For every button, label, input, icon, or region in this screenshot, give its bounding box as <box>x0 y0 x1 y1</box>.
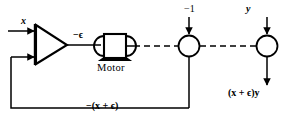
label-amplifier-output: −ϵ <box>73 30 83 40</box>
junction1-circle <box>179 36 200 57</box>
junction2-circle <box>257 36 278 57</box>
motor-block <box>94 34 136 60</box>
label-input-x: x <box>21 16 26 26</box>
label-motor: Motor <box>97 63 125 74</box>
amplifier-triangle <box>36 25 67 64</box>
block-diagram: x −ϵ Motor −1 y (x + ϵ)y −(x + ϵ) <box>0 0 290 121</box>
label-junction1-input: −1 <box>184 4 195 14</box>
label-feedback: −(x + ϵ) <box>86 101 118 111</box>
label-output: (x + ϵ)y <box>228 88 260 98</box>
motor-base <box>101 58 129 60</box>
motor-body <box>104 34 126 58</box>
summing-junction-2 <box>257 36 278 57</box>
diagram-canvas <box>0 0 290 121</box>
motor-left-endbell <box>94 36 104 56</box>
summing-junction-1 <box>179 36 200 57</box>
label-junction2-input: y <box>246 4 250 14</box>
amplifier-block <box>35 24 67 65</box>
